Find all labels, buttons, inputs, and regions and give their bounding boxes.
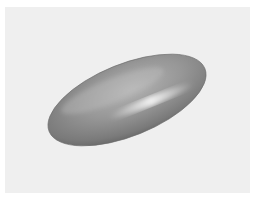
ellipsoid [36,35,219,165]
ellipsoid-render [0,0,263,205]
